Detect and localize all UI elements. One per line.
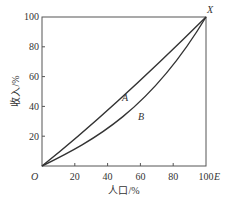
- chart-svg: 20 40 60 80 100 20 40 60 80 100 A B X E …: [0, 0, 233, 204]
- curve-b-label: B: [138, 111, 144, 122]
- x-tick-label: 80: [168, 171, 178, 182]
- point-e-label: E: [213, 171, 220, 182]
- point-x-label: X: [206, 4, 214, 15]
- x-tick-label: 100: [199, 171, 214, 182]
- curve-a-label: A: [121, 92, 129, 103]
- x-tick-label: 20: [70, 171, 80, 182]
- lorenz-chart: 20 40 60 80 100 20 40 60 80 100 A B X E …: [0, 0, 233, 204]
- y-tick-label: 40: [29, 101, 39, 112]
- y-tick-label: 60: [29, 71, 39, 82]
- y-tick-label: 20: [29, 131, 39, 142]
- x-tick-label: 60: [135, 171, 145, 182]
- y-tick-label: 80: [29, 41, 39, 52]
- x-axis-title: 人口/%: [108, 185, 139, 196]
- point-o-label: O: [31, 171, 38, 182]
- x-tick-label: 40: [103, 171, 113, 182]
- y-tick-label: 100: [24, 11, 39, 22]
- y-axis-title: 收入/%: [9, 75, 21, 106]
